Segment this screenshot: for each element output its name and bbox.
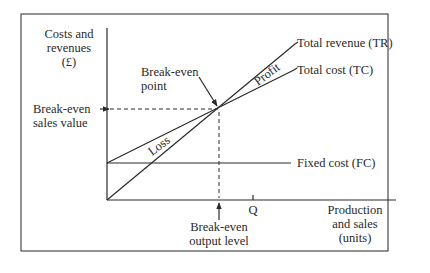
- x-axis-label-line2: and sales: [332, 217, 378, 231]
- break-even-sales-label-line1: Break-even: [33, 102, 91, 116]
- break-even-chart: Costs and revenues (£) Break-even point …: [0, 0, 430, 273]
- break-even-output-label-line2: output level: [189, 234, 249, 248]
- total-cost-line: [107, 70, 294, 163]
- profit-label: Profit: [251, 60, 283, 89]
- x-axis-label-line1: Production: [328, 203, 384, 217]
- break-even-output-label-line1: Break-even: [190, 220, 248, 234]
- break-even-point-label-line2: point: [141, 79, 167, 93]
- break-even-point-label-line1: Break-even: [141, 65, 199, 79]
- y-axis-label-line2: revenues: [47, 41, 92, 55]
- q-tick-label: Q: [248, 203, 257, 217]
- y-axis-label-line3: (£): [62, 55, 77, 69]
- total-revenue-label: Total revenue (TR): [297, 36, 393, 50]
- break-even-point-arrow: [199, 77, 217, 106]
- loss-label: Loss: [145, 133, 172, 158]
- x-axis-label-line3: (units): [339, 231, 372, 245]
- y-axis-label-line1: Costs and: [45, 27, 95, 41]
- total-cost-label: Total cost (TC): [297, 63, 373, 77]
- fixed-cost-label: Fixed cost (FC): [297, 156, 375, 170]
- break-even-sales-label-line2: sales value: [33, 116, 88, 130]
